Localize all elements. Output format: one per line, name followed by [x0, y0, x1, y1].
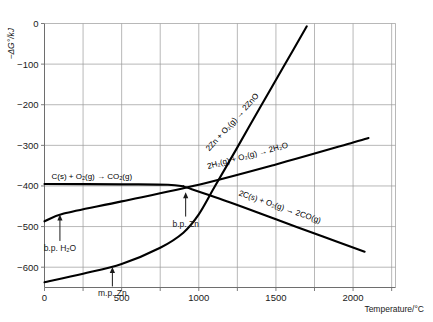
y-tick-label: −100	[17, 59, 38, 70]
y-tick-label: −400	[17, 180, 38, 191]
y-tick-label: −500	[17, 221, 38, 232]
ellingham-diagram: 0500100015002000 0−100−200−300−400−500−6…	[0, 0, 433, 322]
y-axis-title: −ΔG°/kJ	[6, 27, 16, 59]
x-tick-label: 1500	[265, 292, 286, 303]
chart-canvas: 0500100015002000 0−100−200−300−400−500−6…	[0, 0, 433, 322]
y-tick-label: −600	[17, 262, 38, 273]
y-tick-label: 0	[33, 18, 38, 29]
y-tick-label: −300	[17, 140, 38, 151]
annotation-label-bp-zinc: b.p. Zn	[172, 219, 199, 229]
x-tick-label: 0	[42, 292, 47, 303]
x-tick-label: 1000	[188, 292, 209, 303]
x-axis-title: Temperature/°C	[364, 304, 424, 314]
curve-label-carbon-to-carbon-dioxide: C(s) + O₂(g) → CO₂(g)	[51, 172, 132, 181]
annotation-label-mp-zinc: m.p. Zn	[98, 288, 127, 298]
annotation-label-bp-water: b.p. H₂O	[44, 243, 77, 253]
y-tick-label: −200	[17, 99, 38, 110]
x-tick-label: 2000	[343, 292, 364, 303]
